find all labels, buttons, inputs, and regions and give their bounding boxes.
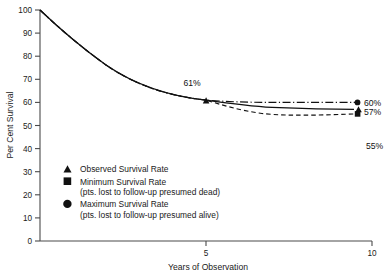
legend-sublabel-minimum: (pts. lost to follow-up presumed dead) — [80, 187, 220, 197]
survival-curve-chart: 100 90 80 70 60 50 40 30 20 10 0 5 10 Ye… — [0, 0, 392, 274]
chart-plot-area: 100 90 80 70 60 50 40 30 20 10 0 5 10 Ye… — [0, 0, 392, 274]
y-tick-label-90: 90 — [23, 29, 33, 38]
x-axis-title: Years of Observation — [168, 262, 248, 272]
y-tick-label-30: 30 — [23, 168, 33, 177]
legend-label-minimum: Minimum Survival Rate — [80, 177, 166, 187]
x-tick-label-5: 5 — [204, 249, 209, 258]
y-axis-title: Per Cent Survival — [5, 91, 15, 158]
y-tick-label-60: 60 — [23, 98, 33, 107]
legend-label-maximum: Maximum Survival Rate — [80, 199, 169, 209]
y-tick-label-0: 0 — [27, 237, 32, 246]
y-tick-label-50: 50 — [23, 122, 33, 131]
annotation-57-percent: 57% — [364, 107, 382, 117]
x-tick-label-10: 10 — [367, 249, 377, 258]
y-tick-label-20: 20 — [23, 191, 33, 200]
y-tick-label-70: 70 — [23, 75, 33, 84]
series-line-maximum — [40, 10, 356, 102]
y-tick-label-40: 40 — [23, 145, 33, 154]
series-line-observed — [40, 10, 354, 109]
legend-sublabel-maximum: (pts. lost to follow-up presumed alive) — [80, 210, 219, 220]
annotation-60-percent: 60% — [364, 98, 382, 108]
legend-label-observed: Observed Survival Rate — [80, 164, 169, 174]
legend-marker-square — [64, 177, 72, 185]
y-tick-label-80: 80 — [23, 52, 33, 61]
y-tick-label-10: 10 — [23, 214, 33, 223]
legend-marker-circle — [63, 200, 71, 208]
annotation-61-percent: 61% — [183, 78, 201, 88]
endpoint-marker-maximum — [355, 100, 361, 106]
endpoint-marker-minimum — [355, 111, 361, 117]
y-tick-label-100: 100 — [18, 6, 32, 15]
legend-marker-triangle — [64, 165, 72, 172]
annotation-55-percent: 55% — [366, 141, 384, 151]
